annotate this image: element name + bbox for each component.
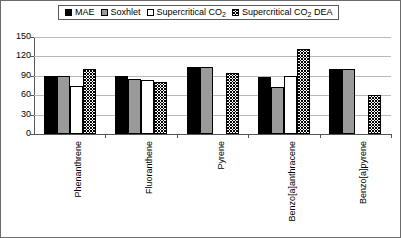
bar xyxy=(115,76,128,134)
bar-group xyxy=(115,37,167,134)
x-axis-tick-mark xyxy=(320,134,321,138)
y-axis-tick-mark xyxy=(30,37,34,38)
x-axis-tick-mark xyxy=(105,134,106,138)
y-axis-tick-mark xyxy=(30,76,34,77)
bar-group xyxy=(44,37,96,134)
y-axis-tick-mark xyxy=(30,56,34,57)
y-axis-tick-label: 120 xyxy=(5,51,31,60)
bar xyxy=(128,79,141,134)
x-axis-category-label: Pyrene xyxy=(217,141,226,170)
x-axis-category-label: Phenanthrene xyxy=(74,141,83,198)
y-axis-tick-label: 90 xyxy=(5,71,31,80)
bar xyxy=(187,67,200,134)
y-axis-tick-mark xyxy=(30,115,34,116)
legend-swatch-icon xyxy=(232,9,239,16)
chart-legend: MAESoxhletSupercritical CO2Supercritical… xyxy=(58,5,339,20)
legend-entry-label: Supercritical CO2 DEA xyxy=(242,8,332,17)
x-axis-tick-mark xyxy=(177,134,178,138)
legend-entry: MAE xyxy=(65,8,95,17)
bar xyxy=(258,77,271,134)
x-axis-line xyxy=(34,134,392,135)
legend-swatch-icon xyxy=(65,9,72,16)
bar-group xyxy=(258,37,310,134)
bar xyxy=(342,69,355,134)
x-axis-tick-mark xyxy=(391,134,392,138)
bar xyxy=(297,49,310,134)
bar-group xyxy=(187,37,239,134)
bar xyxy=(141,80,154,134)
legend-swatch-icon xyxy=(147,9,154,16)
legend-swatch-icon xyxy=(101,9,108,16)
y-axis-tick-mark xyxy=(30,134,34,135)
x-axis-tick-mark xyxy=(248,134,249,138)
bar xyxy=(44,76,57,134)
bar-group xyxy=(329,37,381,134)
y-axis-tick-label: 60 xyxy=(5,90,31,99)
x-axis-category-label: Benzo[a]pyrene xyxy=(359,141,368,204)
x-axis-category-label: Fluoranthene xyxy=(145,141,154,194)
y-axis-labels: 0306090120150 xyxy=(1,1,31,238)
bar xyxy=(226,73,239,134)
y-axis-tick-label: 150 xyxy=(5,32,31,41)
legend-entry: Soxhlet xyxy=(101,8,141,17)
bar xyxy=(368,95,381,134)
bar xyxy=(57,76,70,134)
legend-entry: Supercritical CO2 xyxy=(147,8,226,17)
legend-entry-label: Soxhlet xyxy=(111,8,141,17)
bar xyxy=(271,87,284,134)
bar xyxy=(70,86,83,135)
y-axis-tick-label: 0 xyxy=(5,129,31,138)
legend-entry-label: Supercritical CO2 xyxy=(157,8,226,17)
bar xyxy=(200,67,213,134)
y-axis-tick-label: 30 xyxy=(5,110,31,119)
y-axis-tick-mark xyxy=(30,95,34,96)
bar xyxy=(284,76,297,134)
legend-entry-label: MAE xyxy=(75,8,95,17)
bar xyxy=(154,82,167,134)
bar xyxy=(329,69,342,134)
x-axis-category-label: Benzo[a]anthracene xyxy=(288,141,297,222)
bar xyxy=(83,69,96,134)
legend-entry: Supercritical CO2 DEA xyxy=(232,8,332,17)
bar-chart-figure: MAESoxhletSupercritical CO2Supercritical… xyxy=(0,0,401,238)
plot-area xyxy=(34,37,391,134)
